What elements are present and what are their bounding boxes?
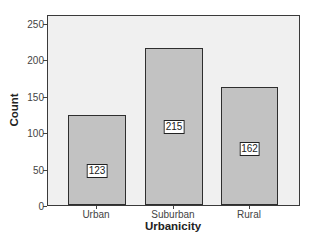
y-tick-label: 100 (27, 128, 44, 139)
x-axis-title: Urbanicity (145, 220, 201, 232)
y-tick-mark (43, 60, 47, 61)
y-tick-label: 200 (27, 55, 44, 66)
y-tick-mark (43, 24, 47, 25)
y-tick-label: 150 (27, 92, 44, 103)
y-tick-mark (43, 206, 47, 207)
y-tick-mark (43, 133, 47, 134)
y-tick-mark (43, 97, 47, 98)
bar-value-label: 123 (87, 164, 108, 178)
bar-value-label: 215 (164, 120, 185, 134)
x-tick-label: Suburban (151, 209, 194, 220)
plot-area: 123 215 162 (47, 15, 300, 206)
x-tick-label: Rural (237, 209, 261, 220)
y-tick-mark (43, 170, 47, 171)
x-tick-label: Urban (82, 209, 109, 220)
y-axis-title: Count (8, 93, 20, 126)
bar-suburban: 215 (145, 48, 203, 205)
bar-urban: 123 (68, 115, 126, 205)
bar-value-label: 162 (239, 142, 260, 156)
y-tick-label: 250 (27, 19, 44, 30)
bar-rural: 162 (221, 87, 278, 205)
